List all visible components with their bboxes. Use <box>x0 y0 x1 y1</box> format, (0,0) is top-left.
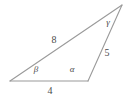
triangle-shape <box>0 0 130 102</box>
angle-label-beta: β <box>34 65 38 74</box>
angle-label-alpha: α <box>70 65 75 74</box>
side-label-base: 4 <box>48 86 53 96</box>
side-label-long: 8 <box>52 35 57 45</box>
side-label-right: 5 <box>105 48 110 58</box>
triangle-figure: 4 8 5 β α γ <box>0 0 130 102</box>
angle-label-gamma: γ <box>106 18 110 27</box>
